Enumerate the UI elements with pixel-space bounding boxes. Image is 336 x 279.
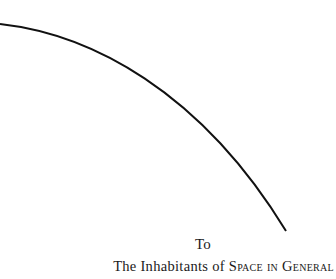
dedication-line: The Inhabitants of Space in General bbox=[113, 258, 334, 275]
dedication-prefix: The Inhabitants of bbox=[113, 258, 229, 274]
dedication-smallcaps: Space in General bbox=[229, 258, 334, 274]
dedication-to: To bbox=[0, 236, 336, 253]
